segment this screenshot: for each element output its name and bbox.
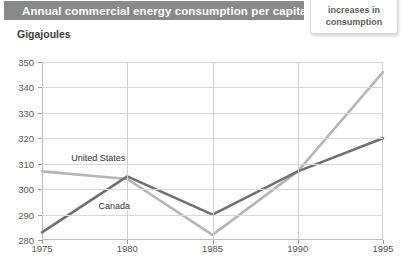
y-tick-mark [38,138,42,139]
callout-line-2: consumption [326,17,383,29]
plot-area [42,62,383,240]
y-tick-label: 310 [8,158,34,169]
callout-box: increases in consumption [310,0,398,34]
y-tick-label: 330 [8,107,34,118]
gridline-vertical [127,62,128,240]
y-tick-label: 350 [8,57,34,68]
y-tick-mark [38,164,42,165]
y-tick-mark [38,215,42,216]
y-tick-label: 290 [8,209,34,220]
y-tick-mark [38,62,42,63]
gridline-vertical [213,62,214,240]
gridline-vertical [298,62,299,240]
y-tick-mark [38,189,42,190]
chart-figure: Annual commercial energy consumption per… [0,0,404,265]
chart-title-bar: Annual commercial energy consumption per… [4,1,304,20]
x-tick-label: 1980 [117,243,138,254]
y-tick-label: 320 [8,133,34,144]
x-tick-label: 1975 [31,243,52,254]
y-tick-label: 280 [8,235,34,246]
x-tick-label: 1995 [372,243,393,254]
x-tick-label: 1985 [202,243,223,254]
y-axis-unit-label: Gigajoules [17,28,71,40]
callout-line-1: increases in [328,5,380,17]
y-tick-mark [38,113,42,114]
series-label-united-states: United States [69,153,127,163]
x-tick-label: 1990 [287,243,308,254]
y-tick-label: 340 [8,82,34,93]
page-title: Annual commercial energy consumption per… [22,5,307,17]
y-tick-label: 300 [8,184,34,195]
series-label-canada: Canada [97,201,133,211]
y-tick-mark [38,87,42,88]
